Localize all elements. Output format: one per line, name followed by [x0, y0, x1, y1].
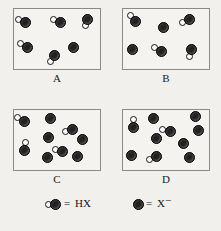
x-atom-in-molecule — [67, 124, 78, 135]
legend-label-superscript: − — [165, 194, 171, 206]
x-atom-in-molecule — [55, 17, 66, 28]
x-atom-in-molecule — [130, 16, 141, 27]
x-atom-in-molecule — [57, 146, 68, 157]
panel-a — [13, 8, 101, 70]
x-anion-particle — [178, 138, 189, 149]
x-atom-in-molecule — [20, 17, 31, 28]
x-anion-particle — [77, 134, 88, 145]
legend-label: HX — [75, 197, 91, 209]
x-atom-in-molecule — [151, 151, 162, 162]
x-atom-in-molecule — [22, 42, 33, 53]
x-atom-in-molecule — [156, 46, 167, 57]
x-anion-particle — [148, 113, 159, 124]
panel-label-a: A — [13, 72, 101, 84]
legend-equals-sign: = — [146, 197, 152, 209]
x-atom-in-molecule — [49, 50, 60, 61]
legend-equals-sign: = — [64, 197, 70, 209]
x-anion-particle — [133, 199, 144, 210]
x-atom-in-molecule — [19, 116, 30, 127]
x-anion-particle — [190, 111, 201, 122]
x-anion-glyph — [132, 196, 158, 210]
x-atom-in-molecule — [128, 122, 139, 133]
panel-b — [122, 8, 210, 70]
x-anion-particle — [151, 133, 162, 144]
x-anion-particle — [126, 150, 137, 161]
legend-label: X — [157, 197, 165, 209]
panel-label-b: B — [122, 72, 210, 84]
x-atom-in-molecule — [186, 44, 197, 55]
panel-label-d: D — [122, 173, 210, 185]
x-anion-particle — [68, 42, 79, 53]
x-anion-particle — [127, 44, 138, 55]
x-anion-particle — [45, 113, 56, 124]
x-anion-particle — [193, 125, 204, 136]
x-anion-particle — [158, 22, 169, 33]
x-atom-in-molecule — [165, 126, 176, 137]
panel-c — [13, 109, 101, 171]
x-atom-in-molecule — [50, 199, 61, 210]
x-atom-in-molecule — [184, 14, 195, 25]
x-atom-in-molecule — [82, 14, 93, 25]
x-anion-particle — [184, 152, 195, 163]
x-anion-particle — [43, 132, 54, 143]
x-atom-in-molecule — [19, 145, 30, 156]
legend: =HX=X− — [0, 196, 221, 222]
x-anion-particle — [42, 152, 53, 163]
panel-label-c: C — [13, 173, 101, 185]
panel-d — [122, 109, 210, 171]
x-anion-particle — [72, 151, 83, 162]
